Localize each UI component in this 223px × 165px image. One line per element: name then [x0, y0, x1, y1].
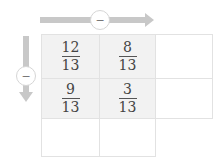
numerator: 9: [66, 82, 75, 97]
numerator: 12: [62, 40, 80, 55]
grid-cell-r2c1: [100, 119, 156, 157]
minus-icon: −: [95, 15, 104, 26]
grid-cell-r0c0: 12 13: [42, 35, 100, 79]
fraction: 12 13: [62, 40, 80, 73]
grid-cell-r1c1: 3 13: [100, 79, 156, 119]
numerator: 3: [123, 82, 132, 97]
fraction-grid: 12 13 8 13 9 13 3 13: [41, 34, 213, 157]
grid-cell-r1c2: [156, 79, 213, 119]
minus-operator-left: −: [16, 66, 36, 86]
fraction: 9 13: [62, 82, 80, 115]
denominator: 13: [62, 100, 80, 115]
grid-cell-r0c2: [156, 35, 213, 79]
numerator: 8: [123, 40, 132, 55]
grid-cell-r2c0: [42, 119, 100, 157]
down-arrow-head-icon: [19, 92, 33, 102]
denominator: 13: [119, 100, 137, 115]
minus-icon: −: [21, 71, 30, 82]
minus-operator-top: −: [90, 10, 110, 30]
grid-cell-r1c0: 9 13: [42, 79, 100, 119]
fraction: 3 13: [119, 82, 137, 115]
right-arrow-head-icon: [145, 13, 154, 27]
grid-cell-r2c2: [156, 119, 213, 157]
grid-cell-r0c1: 8 13: [100, 35, 156, 79]
denominator: 13: [119, 58, 137, 73]
denominator: 13: [62, 58, 80, 73]
fraction: 8 13: [119, 40, 137, 73]
